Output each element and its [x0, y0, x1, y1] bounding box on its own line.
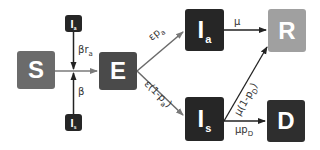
label-mu-pd: μpD [235, 124, 253, 138]
node-is: Is [185, 97, 224, 141]
node-e-label: E [110, 57, 126, 85]
node-is-source: Is [65, 114, 82, 131]
node-r: R [268, 9, 306, 52]
node-is-sub: s [205, 122, 211, 134]
label-mu: μ [234, 16, 240, 27]
node-s: S [17, 51, 55, 89]
node-is-label: I [198, 105, 205, 133]
label-beta-ra: βra [78, 44, 93, 58]
node-ia-source-sub: a [74, 25, 77, 31]
node-s-label: S [28, 56, 44, 84]
node-is-source-sub: s [74, 124, 77, 130]
node-e: E [99, 52, 137, 90]
node-d-label: D [277, 107, 294, 135]
node-ia-label: I [198, 16, 205, 44]
label-beta: β [78, 86, 84, 97]
node-r-label: R [278, 17, 295, 45]
node-ia: Ia [185, 9, 224, 51]
node-d: D [267, 100, 305, 142]
node-ia-source: Ia [65, 15, 82, 32]
node-ia-sub: a [205, 33, 211, 45]
